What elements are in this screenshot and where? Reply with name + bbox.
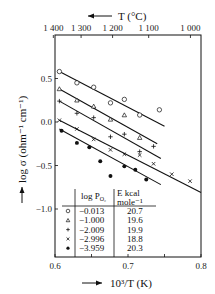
top-tick-label: 1 300 bbox=[71, 23, 92, 33]
legend: log PO₂ E kcal mole⁻¹ −0.01320.7−1.00019… bbox=[62, 188, 156, 257]
data-point bbox=[58, 119, 62, 123]
data-point bbox=[138, 153, 142, 157]
legend-energy: 20.3 bbox=[127, 243, 143, 253]
legend-marker-icon bbox=[66, 209, 70, 213]
data-point bbox=[60, 129, 64, 133]
top-tick-label: 1 400 bbox=[43, 23, 64, 33]
series-2 bbox=[57, 99, 161, 159]
data-point bbox=[188, 179, 192, 183]
data-point bbox=[91, 85, 95, 89]
data-point bbox=[157, 108, 161, 112]
svg-text:log PO₂: log PO₂ bbox=[81, 191, 106, 202]
data-point bbox=[133, 168, 137, 172]
series-3 bbox=[58, 119, 201, 193]
x-axis-title: 10³/T (K) bbox=[82, 277, 152, 290]
y-axis-label: log σ (ohm⁻¹ cm⁻¹) bbox=[16, 96, 29, 183]
x-axis-label: 10³/T (K) bbox=[110, 277, 152, 290]
y-tick-label: −0.5 bbox=[36, 161, 53, 171]
arrow-right-icon bbox=[96, 281, 102, 286]
data-point bbox=[152, 162, 156, 166]
x-tick-label: 0.6 bbox=[49, 261, 61, 271]
data-point bbox=[108, 117, 112, 121]
top-tick-label: 1 100 bbox=[139, 23, 160, 33]
legend-marker-icon bbox=[66, 228, 70, 232]
legend-logp: −3.959 bbox=[79, 243, 105, 253]
data-point bbox=[109, 174, 113, 178]
arrow-up-icon bbox=[20, 187, 25, 193]
top-tick-label: 1 200 bbox=[102, 23, 123, 33]
data-point bbox=[122, 113, 126, 117]
legend-header-logp: log P bbox=[81, 191, 100, 201]
fit-line bbox=[59, 120, 201, 192]
legend-header-logp-sub: O₂ bbox=[100, 196, 106, 202]
y-axis-title: log σ (ohm⁻¹ cm⁻¹) bbox=[16, 96, 29, 203]
data-point bbox=[144, 177, 148, 181]
data-point bbox=[122, 97, 126, 101]
top-tick-label: 1 000 bbox=[180, 23, 201, 33]
data-point bbox=[109, 148, 113, 152]
top-axis-label: T (°C) bbox=[118, 10, 147, 23]
data-point bbox=[91, 104, 95, 108]
data-point bbox=[151, 144, 155, 148]
data-series bbox=[57, 69, 201, 192]
data-point bbox=[75, 141, 79, 145]
data-point bbox=[137, 113, 141, 117]
data-point bbox=[108, 135, 112, 139]
data-point bbox=[98, 159, 102, 163]
legend-marker-icon bbox=[66, 219, 70, 222]
x-tick-label: 0.7 bbox=[122, 261, 134, 271]
data-point bbox=[122, 164, 126, 168]
data-point bbox=[170, 172, 174, 176]
data-point bbox=[57, 99, 61, 103]
data-point bbox=[122, 132, 126, 136]
data-point bbox=[75, 81, 79, 85]
x-tick-label: 0.8 bbox=[195, 261, 207, 271]
data-point bbox=[87, 145, 91, 149]
arrow-left-icon bbox=[88, 14, 94, 19]
data-point bbox=[57, 69, 61, 73]
top-axis-title: T (°C) bbox=[88, 10, 147, 23]
top-axis-ticks: 1 4001 3001 2001 1001 000 bbox=[43, 23, 201, 38]
legend-marker-icon bbox=[67, 237, 70, 240]
y-tick-label: −1.0 bbox=[36, 204, 53, 214]
data-point bbox=[108, 101, 112, 105]
y-tick-label: 0.0 bbox=[41, 117, 53, 127]
arrhenius-chart: T (°C) 1 4001 3001 2001 1001 000 0.50.0−… bbox=[0, 0, 215, 294]
legend-marker-icon bbox=[66, 247, 69, 250]
data-point bbox=[137, 135, 141, 139]
y-tick-label: 0.5 bbox=[41, 74, 53, 84]
data-point bbox=[57, 87, 61, 91]
